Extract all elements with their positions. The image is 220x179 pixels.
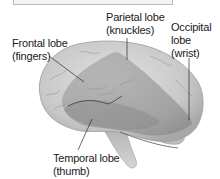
parietal-lobe-name: Parietal lobe	[106, 11, 165, 24]
label-frontal-lobe: Frontal lobe (fingers)	[12, 37, 68, 63]
frontal-lobe-name: Frontal lobe	[12, 37, 68, 50]
label-temporal-lobe: Temporal lobe (thumb)	[53, 152, 120, 178]
parietal-lobe-analogy: (knuckles)	[106, 24, 165, 37]
temporal-lobe-name: Temporal lobe	[53, 152, 120, 165]
frontal-lobe-analogy: (fingers)	[12, 50, 68, 63]
occipital-lobe-analogy: (wrist)	[171, 47, 211, 60]
temporal-lobe-analogy: (thumb)	[53, 165, 120, 178]
occipital-lobe-name-2: lobe	[171, 34, 211, 47]
occipital-lobe-name-1: Occipital	[171, 21, 211, 34]
label-occipital-lobe: Occipital lobe (wrist)	[171, 21, 211, 60]
label-parietal-lobe: Parietal lobe (knuckles)	[106, 11, 165, 37]
